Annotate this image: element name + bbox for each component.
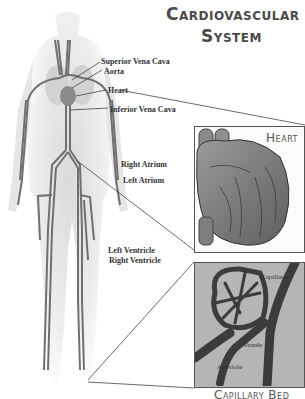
label-heart: Heart <box>108 86 128 95</box>
label-capillaries: Capillaries <box>261 273 291 281</box>
heart-illustration <box>195 127 303 251</box>
label-left-atrium: Left Atrium <box>123 176 164 185</box>
heart-panel-title: Heart <box>266 131 298 145</box>
label-venule: Venule <box>243 341 262 349</box>
label-superior-vena-cava: Superior Vena Cava <box>101 57 170 66</box>
label-left-ventricle: Left Ventricle <box>108 246 155 255</box>
label-right-atrium: Right Atrium <box>121 160 167 169</box>
label-right-ventricle: Right Ventricle <box>109 256 161 265</box>
title-line-2: System <box>201 26 262 46</box>
capillary-panel-title: Capillary Bed <box>214 388 289 399</box>
label-aorta: Aorta <box>104 67 124 76</box>
capillary-bed-panel: Capillaries Venule Arteriole <box>194 262 305 388</box>
label-inferior-vena-cava: Inferior Vena Cava <box>110 105 176 114</box>
heart-panel: Heart <box>194 126 305 253</box>
title-line-1: Cardiovascular <box>166 4 299 24</box>
label-arteriole: Arteriole <box>217 363 242 371</box>
capillary-illustration <box>195 263 303 386</box>
